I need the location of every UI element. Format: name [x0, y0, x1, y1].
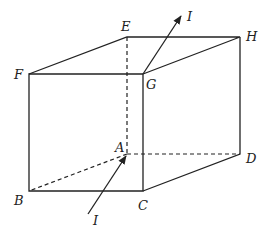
- hidden-edge-AB: [29, 154, 127, 191]
- front-face-FGCB: [29, 74, 143, 191]
- vertex-label-C: C: [138, 198, 148, 213]
- top-face-edges: [29, 37, 240, 74]
- current-label-out: I: [186, 9, 193, 24]
- right-face-edges: [143, 37, 240, 191]
- vertex-label-G: G: [146, 77, 156, 92]
- vertex-label-F: F: [13, 67, 24, 82]
- vertex-label-H: H: [245, 29, 258, 44]
- vertex-label-A: A: [114, 140, 124, 155]
- vertex-label-B: B: [13, 193, 24, 208]
- current-arrow-out: [143, 16, 181, 74]
- current-label-in: I: [92, 213, 99, 228]
- cuboid-diagram: E H F G A D B C I I: [0, 0, 271, 235]
- vertex-label-E: E: [120, 19, 131, 34]
- current-arrow-in: [88, 156, 126, 214]
- vertex-label-D: D: [245, 151, 257, 166]
